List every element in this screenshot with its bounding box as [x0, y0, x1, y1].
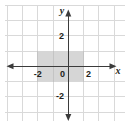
x-tick-label-0: 0 — [60, 69, 65, 79]
x-tick-label-neg2: -2 — [34, 69, 42, 79]
coordinate-plane-figure: x y -2 0 2 2 -2 — [0, 0, 130, 127]
y-tick-label-2: 2 — [59, 31, 64, 41]
x-tick-label-2: 2 — [86, 69, 91, 79]
y-tick-label-neg2: -2 — [56, 91, 64, 101]
x-axis-label: x — [115, 65, 121, 76]
coordinate-plane-svg: x y -2 0 2 2 -2 — [0, 0, 130, 127]
y-axis-label: y — [59, 5, 65, 16]
